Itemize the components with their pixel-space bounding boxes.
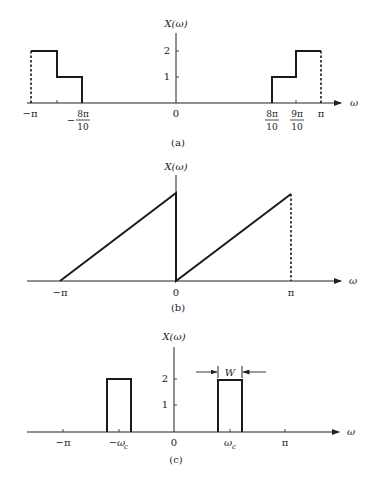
y-axis-label: X(ω) bbox=[161, 331, 185, 342]
y-tick-label-1: 1 bbox=[164, 71, 170, 82]
svg-text:8π: 8π bbox=[77, 109, 89, 119]
y-tick-label-2: 2 bbox=[162, 373, 168, 384]
svg-text:−: − bbox=[67, 115, 75, 126]
width-indicator-W: W bbox=[196, 366, 266, 378]
svg-text:10: 10 bbox=[291, 122, 303, 132]
pulse-omega-c bbox=[218, 380, 242, 432]
panel-a: X(ω) 2 1 ω −π − 8π 10 0 8π 10 9π 10 π (a… bbox=[23, 18, 359, 148]
x-tick-label-pi: π bbox=[318, 108, 325, 119]
x-tick-label-9pi-10: 9π 10 bbox=[290, 109, 304, 132]
panel-caption-b: (b) bbox=[171, 302, 185, 313]
svg-text:c: c bbox=[232, 443, 236, 451]
x-tick-label-pi: π bbox=[282, 437, 289, 448]
figure: X(ω) 2 1 ω −π − 8π 10 0 8π 10 9π 10 π (a… bbox=[0, 0, 378, 481]
x-tick-label-omega-c: ω c bbox=[224, 437, 236, 451]
svg-text:8π: 8π bbox=[266, 109, 278, 119]
x-tick-label-neg-omega-c: −ω c bbox=[109, 437, 128, 451]
y-tick-label-2: 2 bbox=[164, 45, 170, 56]
x-tick-label-0: 0 bbox=[173, 108, 179, 119]
x-tick-label-neg-pi: −π bbox=[53, 287, 68, 298]
sawtooth-signal bbox=[60, 193, 291, 281]
svg-text:c: c bbox=[124, 443, 128, 451]
y-axis-label: X(ω) bbox=[163, 18, 187, 29]
svg-text:9π: 9π bbox=[291, 109, 303, 119]
svg-text:10: 10 bbox=[266, 122, 278, 132]
x-axis-label: ω bbox=[350, 97, 358, 108]
step-signal-right bbox=[272, 51, 321, 103]
x-axis-label: ω bbox=[347, 426, 355, 437]
svg-text:−ω: −ω bbox=[109, 437, 126, 448]
width-label: W bbox=[225, 367, 236, 378]
panel-caption-a: (a) bbox=[171, 137, 185, 148]
x-tick-label-8pi-10: 8π 10 bbox=[265, 109, 279, 132]
x-tick-label-neg-pi: −π bbox=[23, 108, 38, 119]
x-tick-label-0: 0 bbox=[173, 287, 179, 298]
panel-caption-c: (c) bbox=[169, 454, 183, 465]
y-tick-label-1: 1 bbox=[162, 399, 168, 410]
step-signal-left bbox=[31, 51, 82, 103]
x-tick-label-0: 0 bbox=[171, 437, 177, 448]
pulse-neg-omega-c bbox=[107, 379, 131, 432]
svg-text:10: 10 bbox=[77, 122, 89, 132]
svg-text:ω: ω bbox=[224, 437, 232, 448]
y-axis-label: X(ω) bbox=[163, 161, 187, 172]
x-tick-label-neg-pi: −π bbox=[56, 437, 71, 448]
panel-c: W X(ω) 2 1 ω −π −ω c 0 ω c π (c) bbox=[27, 331, 355, 465]
x-tick-label-neg-8pi-10: − 8π 10 bbox=[67, 109, 90, 132]
x-axis-label: ω bbox=[349, 275, 357, 286]
x-tick-label-pi: π bbox=[288, 287, 295, 298]
panel-b: X(ω) ω −π 0 π (b) bbox=[27, 161, 357, 313]
